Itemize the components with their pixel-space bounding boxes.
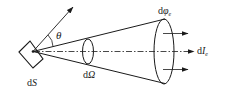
area-var: S: [32, 77, 37, 88]
cone-top-edge: [33, 19, 165, 52]
angle-arc-icon: [48, 35, 53, 47]
theta-symbol: θ: [56, 29, 61, 41]
area-element-label: dS: [27, 78, 37, 88]
radiant-intensity-diagram: θ dS dΩ dφe dIe: [0, 0, 229, 98]
flux-label: dφe: [158, 6, 171, 17]
intensity-label: dIe: [197, 46, 208, 57]
theta-label: θ: [56, 30, 61, 41]
flux-sub: e: [169, 11, 172, 17]
cone-bottom-edge: [33, 52, 165, 84]
solid-angle-var: Ω: [88, 69, 95, 80]
solid-angle-label: dΩ: [83, 70, 95, 80]
intensity-sub: e: [205, 51, 208, 57]
